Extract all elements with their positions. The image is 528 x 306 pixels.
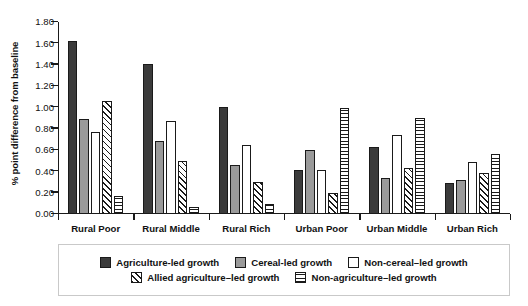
- legend-row: Agriculture-led growthCereal-led growthN…: [100, 257, 467, 268]
- y-tick-label: 0.60: [14, 145, 54, 155]
- x-tick: [284, 214, 285, 220]
- bar: [230, 165, 240, 214]
- legend-swatch-icon: [348, 257, 359, 268]
- y-tick-label: 0.20: [14, 188, 54, 198]
- x-category-label: Rural Middle: [142, 223, 200, 234]
- y-tick-label: 1.60: [14, 39, 54, 49]
- bar: [468, 162, 478, 214]
- bar: [166, 121, 176, 214]
- x-tick: [435, 214, 436, 220]
- plot-area: 0.000.200.400.600.801.001.201.401.601.80…: [58, 22, 510, 214]
- bar: [178, 161, 188, 214]
- legend-label: Cereal-led growth: [251, 257, 332, 268]
- bar: [253, 182, 263, 214]
- y-tick-label: 0.00: [14, 209, 54, 219]
- bar: [404, 168, 414, 214]
- legend-item[interactable]: Allied agriculture–led growth: [131, 272, 279, 283]
- x-tick: [510, 214, 511, 220]
- chart-legend: Agriculture-led growthCereal-led growthN…: [58, 244, 510, 296]
- legend-swatch-icon: [100, 257, 111, 268]
- bar: [392, 135, 402, 214]
- bar: [317, 170, 327, 214]
- bar: [340, 108, 350, 214]
- bar: [479, 173, 489, 214]
- y-tick-label: 1.20: [14, 81, 54, 91]
- bar: [155, 141, 165, 214]
- bar: [328, 193, 338, 214]
- legend-row: Allied agriculture–led growthNon-agricul…: [131, 272, 436, 283]
- bar: [381, 178, 391, 214]
- bar: [305, 150, 315, 214]
- x-category-label: Urban Rich: [447, 223, 498, 234]
- legend-label: Non-agriculture–led growth: [311, 272, 436, 283]
- legend-item[interactable]: Non-cereal–led growth: [348, 257, 467, 268]
- bar: [242, 145, 252, 214]
- bar: [68, 41, 78, 214]
- bar: [143, 64, 153, 214]
- legend-item[interactable]: Non-agriculture–led growth: [295, 272, 436, 283]
- y-tick-label: 0.80: [14, 124, 54, 134]
- y-tick-label: 1.80: [14, 17, 54, 27]
- x-tick: [133, 214, 134, 220]
- legend-swatch-icon: [131, 272, 142, 283]
- legend-swatch-icon: [235, 257, 246, 268]
- x-category-label: Rural Rich: [222, 223, 270, 234]
- bar: [369, 147, 379, 214]
- y-axis-line: [58, 22, 59, 214]
- bar: [189, 207, 199, 214]
- y-tick-label: 1.00: [14, 103, 54, 113]
- x-category-label: Urban Middle: [367, 223, 428, 234]
- bar: [265, 204, 275, 214]
- legend-label: Non-cereal–led growth: [364, 257, 467, 268]
- legend-label: Agriculture-led growth: [116, 257, 219, 268]
- legend-item[interactable]: Cereal-led growth: [235, 257, 332, 268]
- bar: [294, 170, 304, 214]
- bar: [445, 183, 455, 214]
- y-tick-label: 1.40: [14, 60, 54, 70]
- x-tick: [58, 214, 59, 220]
- bar: [491, 154, 501, 214]
- x-tick: [359, 214, 360, 220]
- bar: [114, 196, 124, 214]
- bar: [79, 119, 89, 214]
- bar: [415, 118, 425, 214]
- legend-item[interactable]: Agriculture-led growth: [100, 257, 219, 268]
- x-category-label: Urban Poor: [296, 223, 348, 234]
- x-category-label: Rural Poor: [71, 223, 120, 234]
- bar: [91, 132, 101, 214]
- bar: [219, 107, 229, 214]
- x-tick: [209, 214, 210, 220]
- chart-root: % point difference from baseline 0.000.2…: [0, 0, 528, 306]
- bar: [456, 180, 466, 214]
- bar: [102, 101, 112, 214]
- legend-swatch-icon: [295, 272, 306, 283]
- y-tick-label: 0.40: [14, 167, 54, 177]
- legend-label: Allied agriculture–led growth: [147, 272, 279, 283]
